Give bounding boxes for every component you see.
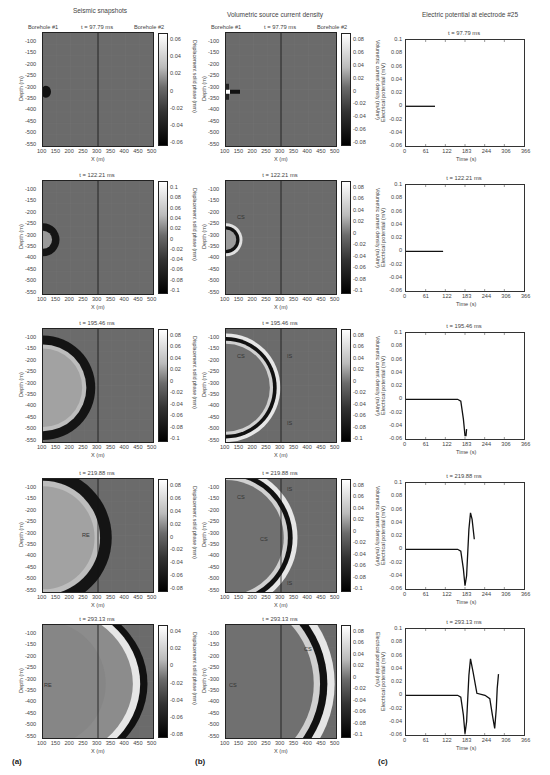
current-density-heatmap xyxy=(225,624,337,739)
y-tick: -500 xyxy=(208,129,219,135)
x-tick: 100 xyxy=(220,594,229,600)
annotation-label: IS xyxy=(287,420,292,426)
y-tick: -400 xyxy=(208,402,219,408)
plot-y-tick: 0.08 xyxy=(388,638,402,644)
y-tick: -350 xyxy=(208,243,219,249)
y-tick: -400 xyxy=(25,106,36,112)
plot-x-tick: 366 xyxy=(521,441,530,447)
x-axis-label: X (m) xyxy=(274,602,288,608)
y-tick: -500 xyxy=(208,425,219,431)
y-tick: -150 xyxy=(25,345,36,351)
y-tick: -550 xyxy=(25,733,36,739)
y-tick: -100 xyxy=(208,334,219,340)
plot-y-tick: 0 xyxy=(388,691,402,697)
x-axis-label: X (m) xyxy=(274,748,288,754)
y-axis-label: Depth (m) xyxy=(18,76,24,101)
plot-x-tick: 0 xyxy=(403,148,406,154)
plot-x-label: Time (s) xyxy=(456,449,476,455)
colorbar-tick: 0 xyxy=(170,534,173,540)
colorbar-tick: 0.08 xyxy=(170,482,181,488)
plot-x-tick: 244 xyxy=(482,591,491,597)
x-tick: 150 xyxy=(51,296,60,302)
y-tick: -500 xyxy=(25,129,36,135)
x-tick: 500 xyxy=(330,148,339,154)
y-tick: -100 xyxy=(208,186,219,192)
colorbar-tick: 0 xyxy=(353,378,356,384)
x-tick: 300 xyxy=(275,594,284,600)
y-axis-label: Depth (m) xyxy=(201,76,207,101)
annotation-label: IS xyxy=(287,580,292,586)
colorbar-tick: -0.08 xyxy=(170,585,183,591)
plot-y-label: Electrical potential (mV) xyxy=(380,208,386,267)
colorbar-tick: -0.08 xyxy=(353,139,366,145)
plot-y-tick: -0.02 xyxy=(388,116,402,122)
plot-x-tick: 183 xyxy=(462,148,471,154)
plot-y-tick: -0.02 xyxy=(388,261,402,267)
colorbar-tick: 0 xyxy=(353,230,356,236)
y-tick: -350 xyxy=(208,391,219,397)
x-axis-label: X (m) xyxy=(91,452,105,458)
colorbar-tick: 0.02 xyxy=(170,366,181,372)
colorbar-tick: -0.08 xyxy=(353,424,366,430)
plot-x-label: Time (s) xyxy=(456,745,476,751)
x-tick: 250 xyxy=(261,594,270,600)
y-tick: -450 xyxy=(25,414,36,420)
x-tick: 500 xyxy=(147,740,156,746)
colorbar-tick: -0.1 xyxy=(353,731,363,737)
x-tick: 150 xyxy=(234,296,243,302)
plot-y-tick: 0.02 xyxy=(388,532,402,538)
annotation-label: CS xyxy=(237,494,245,500)
x-axis-label: X (m) xyxy=(91,748,105,754)
colorbar-tick: 0.04 xyxy=(170,53,181,59)
plot-y-tick: -0.04 xyxy=(388,129,402,135)
y-tick: -300 xyxy=(208,530,219,536)
colorbar-tick: -0.08 xyxy=(353,276,366,282)
colorbar xyxy=(158,181,168,294)
x-tick: 150 xyxy=(51,740,60,746)
x-tick: 200 xyxy=(65,594,74,600)
plot-x-tick: 306 xyxy=(501,148,510,154)
y-tick: -400 xyxy=(25,254,36,260)
plot-x-label: Time (s) xyxy=(456,599,476,605)
y-tick: -100 xyxy=(25,630,36,636)
plot-x-tick: 183 xyxy=(462,293,471,299)
y-tick: -250 xyxy=(25,368,36,374)
colorbar-tick: 0.08 xyxy=(353,482,364,488)
x-tick: 300 xyxy=(92,444,101,450)
colorbar-tick: -0.1 xyxy=(170,435,180,441)
annotation-label: CS xyxy=(260,536,268,542)
colorbar-tick: 0.04 xyxy=(353,651,364,657)
x-tick: 450 xyxy=(316,296,325,302)
colorbar xyxy=(158,329,168,442)
y-tick: -100 xyxy=(25,186,36,192)
y-tick: -300 xyxy=(25,530,36,536)
colorbar-tick: 0.02 xyxy=(353,516,364,522)
x-tick: 150 xyxy=(234,594,243,600)
y-tick: -400 xyxy=(25,552,36,558)
x-tick: 500 xyxy=(330,594,339,600)
colorbar-tick: 0 xyxy=(353,528,356,534)
colorbar-tick: 0.02 xyxy=(170,521,181,527)
plot-y-tick: -0.02 xyxy=(388,705,402,711)
y-tick: -500 xyxy=(25,575,36,581)
colorbar-tick: 0.06 xyxy=(353,195,364,201)
colorbar xyxy=(158,625,168,738)
time-label-a: t = 97.79 ms xyxy=(42,24,152,30)
x-tick: 100 xyxy=(37,740,46,746)
y-tick: -300 xyxy=(208,676,219,682)
colorbar-tick: 0.06 xyxy=(170,343,181,349)
colorbar-tick: 0.08 xyxy=(170,194,181,200)
plot-x-tick: 0 xyxy=(403,737,406,743)
colorbar-tick: -0.02 xyxy=(170,546,183,552)
colorbar-tick: 0.02 xyxy=(170,70,181,76)
y-tick: -300 xyxy=(25,84,36,90)
colorbar-tick: -0.06 xyxy=(353,562,366,568)
colorbar-tick: 0.04 xyxy=(170,215,181,221)
colorbar-tick: -0.04 xyxy=(353,113,366,119)
y-tick: -250 xyxy=(208,368,219,374)
y-tick: -250 xyxy=(25,72,36,78)
plot-y-tick: 0.04 xyxy=(388,665,402,671)
colorbar-tick: -0.04 xyxy=(170,122,183,128)
x-tick: 400 xyxy=(120,444,129,450)
y-axis-label: Depth (m) xyxy=(201,224,207,249)
